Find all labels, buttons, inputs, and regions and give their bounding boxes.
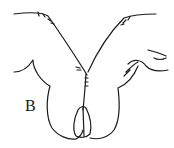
right-hand-outline [90, 66, 138, 139]
hands-line-drawing [0, 0, 174, 148]
left-arm-outline [14, 13, 87, 75]
left-arm-hatching [38, 12, 81, 70]
right-thumb-lines [124, 50, 166, 76]
panel-label: B [25, 98, 36, 114]
right-arm-outline [88, 14, 156, 72]
center-seam [83, 74, 86, 110]
right-arm-hatching [121, 17, 130, 25]
right-thumb-outline [128, 60, 168, 70]
